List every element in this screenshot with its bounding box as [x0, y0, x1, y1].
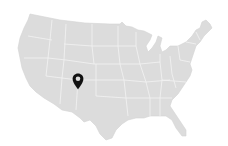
us-map: Contiguous United States Four Corners re…	[0, 0, 228, 146]
us-map-svg	[0, 0, 228, 146]
us-land-shape	[18, 14, 212, 140]
map-pin-icon[interactable]	[72, 73, 84, 90]
